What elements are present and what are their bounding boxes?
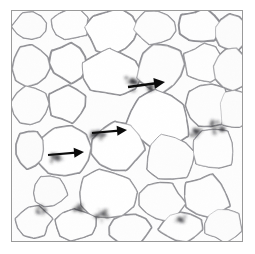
figure-root: [0, 0, 255, 254]
micrograph-frame: [11, 10, 243, 242]
adipose-tissue-image: [12, 11, 242, 241]
film-grain-overlay: [12, 11, 242, 241]
